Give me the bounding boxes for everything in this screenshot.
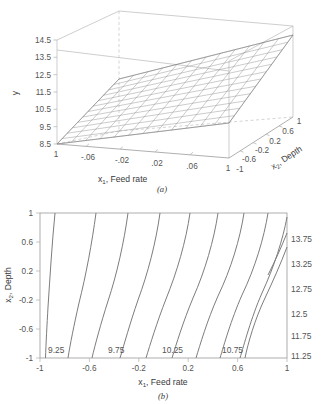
x2-tick-label: -1 [236, 165, 244, 174]
x1-tick-label: -.02 [115, 156, 130, 165]
contour-level-label: 11.75 [291, 331, 312, 341]
x2-tick-label: 1 [297, 117, 302, 126]
x2-axis-tick-labels: -1 -0.6 -0.2 0.2 0.6 1 [236, 117, 301, 174]
contour-level-label: 13.25 [291, 259, 312, 269]
svg-text:x1, Feed rate: x1, Feed rate [138, 377, 188, 388]
x1-axis-tick-labels: 1 -.06 -.02 .02 .06 1 [54, 150, 231, 173]
contour-y-axis-tick-labels: 1 0.6 0.2 -0.2 -0.6 -1 [19, 209, 34, 363]
contour-level-label: 9.75 [108, 345, 125, 355]
contour-level-label: 9.25 [48, 345, 65, 355]
y-tick-label: -0.2 [19, 296, 34, 305]
z-tick-label: 10.5 [35, 105, 51, 114]
svg-text:x2, Depth: x2, Depth [269, 144, 305, 173]
contour-plot-svg: -1 -0.6 -0.2 0.2 0.6 1 1 0.6 0.2 -0.2 -0… [0, 195, 324, 404]
z-tick-label: 14.5 [35, 36, 51, 45]
x1-axis-title-rest: , Feed rate [106, 174, 148, 184]
y-tick-label: 0.2 [22, 267, 34, 276]
z-tick-label: 9.5 [40, 123, 52, 132]
contour-x-axis-tick-labels: -1 -0.6 -0.2 0.2 0.6 1 [36, 364, 289, 373]
z-axis-tick-labels: 14.5 13.5 12.5 11.5 10.5 9.5 8.5 [35, 36, 51, 149]
x1-tick-label: -.06 [81, 153, 96, 162]
x2-tick-label: -0.6 [242, 155, 257, 164]
contour-level-label: 11.25 [291, 351, 312, 361]
contour-x-axis-ticks [40, 358, 287, 362]
x1-tick-label: .06 [186, 162, 198, 171]
x-tick-label: -0.2 [132, 364, 147, 373]
contour-level-label: 13.75 [291, 234, 312, 244]
x-tick-label: 0.6 [232, 364, 244, 373]
contour-level-label: 12.5 [291, 309, 308, 319]
figure-a-caption: (a) [157, 184, 167, 194]
contour-level-label: 10.25 [162, 345, 183, 355]
y-tick-label: 1 [28, 209, 33, 218]
contour-labels-right: 13.75 13.25 12.75 12.5 11.75 11.25 [291, 234, 312, 361]
contour-y-axis-ticks [36, 213, 40, 358]
x-tick-label: 0.2 [183, 364, 195, 373]
z-axis-3d [54, 40, 58, 144]
z-tick-label: 13.5 [35, 53, 51, 62]
y-tick-label: -1 [26, 354, 34, 363]
x-tick-label: 1 [285, 364, 290, 373]
x2-axis-title: x2, Depth [269, 144, 305, 173]
svg-text:x1, Feed rate: x1, Feed rate [98, 174, 148, 185]
y-tick-label: -0.6 [19, 325, 34, 334]
figure-b-caption: (b) [158, 391, 168, 401]
z-tick-label: 8.5 [40, 140, 52, 149]
x2-axis-title-rest: , Depth [275, 144, 304, 168]
x2-tick-label: 0.6 [282, 127, 294, 136]
surface-plot-svg: 14.5 13.5 12.5 11.5 10.5 9.5 8.5 y 1 -.0… [0, 0, 324, 200]
figure-a-surface-plot: 14.5 13.5 12.5 11.5 10.5 9.5 8.5 y 1 -.0… [0, 0, 324, 200]
contour-level-label: 12.75 [291, 284, 312, 294]
contour-labels-bottom: 9.25 9.75 10.25 10.75 [48, 345, 243, 355]
contour-x-axis-title: x1, Feed rate [138, 377, 188, 388]
x1-tick-label-end-left: 1 [54, 150, 59, 159]
x1-tick-label: .02 [151, 159, 163, 168]
x-tick-label: -0.6 [82, 364, 97, 373]
z-tick-label: 11.5 [36, 88, 52, 97]
y-axis-title-rest: , Depth [3, 267, 13, 295]
z-tick-label: 12.5 [35, 71, 51, 80]
x1-tick-label-end-right: 1 [226, 164, 231, 173]
y-tick-label: 0.6 [22, 238, 34, 247]
z-axis-title: y [10, 90, 20, 95]
contour-y-axis-title: x2, Depth [3, 267, 14, 303]
x-axis-title-rest: , Feed rate [146, 377, 188, 387]
svg-text:x2, Depth: x2, Depth [3, 267, 14, 303]
contour-curves [46, 213, 288, 358]
x1-axis-title: x1, Feed rate [98, 174, 148, 185]
x2-tick-label: -0.2 [255, 146, 270, 155]
x-tick-label: -1 [36, 364, 44, 373]
contour-level-label: 10.75 [222, 345, 243, 355]
figure-b-contour-plot: -1 -0.6 -0.2 0.2 0.6 1 1 0.6 0.2 -0.2 -0… [0, 195, 324, 404]
response-surface-mesh [57, 35, 293, 144]
x2-tick-label: 0.2 [269, 137, 281, 146]
